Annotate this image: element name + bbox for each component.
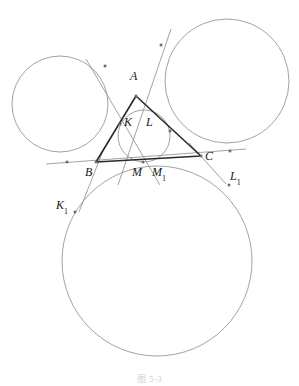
triangle-abc xyxy=(96,96,201,162)
left-circle xyxy=(12,56,108,152)
point-upper-left xyxy=(104,65,107,68)
line-B-to-K1 xyxy=(79,148,104,212)
tangent-point-label-k1: K1 xyxy=(56,199,68,214)
right-circle xyxy=(165,19,289,143)
point-upper-right xyxy=(160,44,163,47)
point-A xyxy=(135,95,138,98)
circles-group xyxy=(12,19,289,356)
point-L xyxy=(169,130,172,133)
tangent-point-label-m: M xyxy=(132,166,142,178)
triangle-outline xyxy=(96,96,201,162)
vertex-label-c: C xyxy=(205,150,213,162)
point-left-base xyxy=(66,161,69,164)
geometry-canvas xyxy=(0,0,299,386)
point-right-base xyxy=(229,150,232,153)
vertex-label-a: A xyxy=(130,70,137,82)
geometry-figure: A B C K L M M1 K1 L1 图 5-3 xyxy=(0,0,299,386)
point-C xyxy=(200,155,203,158)
label-k1-subscript: 1 xyxy=(64,207,68,216)
tangent-point-label-m1: M1 xyxy=(152,166,166,181)
tangent-point-label-l1: L1 xyxy=(230,170,241,185)
vertex-label-b: B xyxy=(85,166,92,178)
label-l1-base: L xyxy=(230,169,237,183)
tangent-point-label-k: K xyxy=(124,116,132,128)
bottom-circle xyxy=(62,166,252,356)
point-K xyxy=(119,123,122,126)
tangent-point-label-l: L xyxy=(146,116,153,128)
label-m1-subscript: 1 xyxy=(162,174,166,183)
label-l1-subscript: 1 xyxy=(237,178,241,187)
point-K1 xyxy=(74,211,77,214)
point-M xyxy=(142,161,145,164)
point-B xyxy=(95,161,98,164)
figure-caption: 图 5-3 xyxy=(0,372,299,385)
label-m1-base: M xyxy=(152,165,162,179)
label-k1-base: K xyxy=(56,198,64,212)
